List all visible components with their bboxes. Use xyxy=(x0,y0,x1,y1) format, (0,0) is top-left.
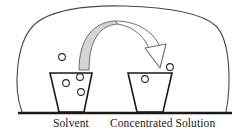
particle xyxy=(142,76,149,83)
transfer-arrow-body xyxy=(79,21,118,70)
particle xyxy=(59,54,66,61)
diagram-canvas: Solvent Concentrated Solution xyxy=(0,0,246,135)
diagram-svg xyxy=(0,0,246,135)
particle xyxy=(167,64,174,71)
particle xyxy=(63,80,70,87)
transfer-arrow-head xyxy=(145,44,166,68)
particle xyxy=(78,89,85,96)
label-solvent: Solvent xyxy=(53,117,89,129)
right-beaker xyxy=(128,73,172,112)
particle xyxy=(77,74,84,81)
label-concentrated: Concentrated Solution xyxy=(110,117,215,129)
left-beaker xyxy=(50,73,92,112)
